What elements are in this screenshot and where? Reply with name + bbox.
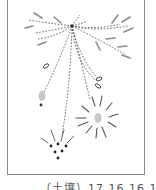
dot-cluster-bottom (50, 143, 68, 160)
dot-cluster-rays (41, 130, 74, 143)
upper-left-rays (25, 13, 61, 45)
seed-dot (40, 104, 43, 107)
figure-caption: （土壤）17 16 16 17 (40, 183, 156, 190)
dashed-branches (28, 15, 128, 135)
upper-right-rays (96, 15, 133, 58)
dispersal-diagram (0, 0, 156, 190)
central-node (70, 24, 74, 28)
seed-pods (43, 63, 103, 89)
burst-center (95, 113, 102, 123)
gray-seed-left (39, 91, 46, 101)
